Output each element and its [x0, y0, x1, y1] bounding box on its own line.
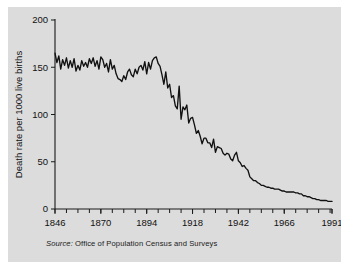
source-label: Source: — [46, 239, 73, 248]
source-note: Source: Office of Population Census and … — [46, 239, 217, 248]
series-line — [55, 53, 332, 201]
x-tick-label: 1942 — [228, 217, 249, 228]
x-tick-label: 1846 — [44, 217, 65, 228]
chart-labels: 0501001502001846187018941918194219661991… — [13, 14, 341, 228]
infant-mortality-line-chart: 0501001502001846187018941918194219661991… — [8, 7, 341, 262]
axis-lines — [55, 19, 332, 209]
y-tick-label: 50 — [37, 156, 48, 167]
source-text: Office of Population Census and Surveys — [75, 239, 217, 248]
y-tick-label: 0 — [43, 203, 48, 214]
chart-figure-panel: 0501001502001846187018941918194219661991… — [8, 7, 341, 262]
x-tick-label: 1894 — [136, 217, 157, 228]
y-tick-label: 200 — [32, 14, 48, 25]
y-tick-label: 100 — [32, 109, 48, 120]
chart-axes — [51, 19, 332, 214]
x-tick-label: 1918 — [182, 217, 203, 228]
x-tick-label: 1991 — [321, 217, 341, 228]
x-tick-label: 1966 — [274, 217, 295, 228]
chart-series — [55, 53, 332, 201]
x-tick-label: 1870 — [90, 217, 111, 228]
y-tick-label: 150 — [32, 62, 48, 73]
y-axis-title: Death rate per 1000 live births — [13, 51, 24, 179]
